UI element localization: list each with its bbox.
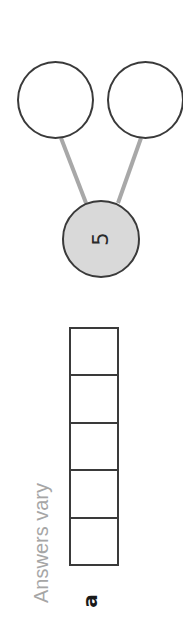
- frame-cell[interactable]: [71, 329, 117, 376]
- frame-cell[interactable]: [71, 376, 117, 423]
- frame-cell[interactable]: [71, 519, 117, 564]
- whole-value: 5: [64, 202, 138, 276]
- connector-right: [118, 138, 141, 203]
- frame-cell[interactable]: [71, 471, 117, 518]
- whole-circle: 5: [62, 200, 140, 278]
- answer-note-text: Answers vary: [30, 483, 53, 603]
- part-circle-left[interactable]: [17, 61, 94, 139]
- part-circle-right[interactable]: [107, 61, 183, 139]
- part-value-right: [109, 64, 183, 137]
- five-frame: [69, 327, 119, 566]
- connector-left: [61, 138, 86, 203]
- frame-cell[interactable]: [71, 424, 117, 471]
- part-value-left: [19, 64, 93, 137]
- part-label-text: a: [78, 594, 102, 608]
- number-bond-worksheet: 5 Answers vary a: [0, 0, 183, 618]
